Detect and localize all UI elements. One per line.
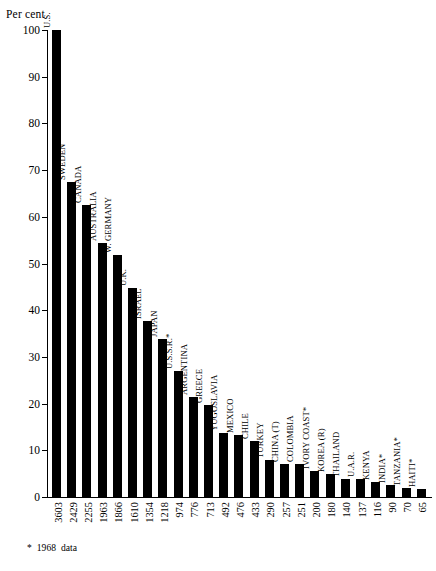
y-tick-label: 70: [29, 164, 41, 176]
bar: [98, 243, 107, 498]
y-tick-mark: [42, 77, 47, 78]
bar-value-text: 476: [235, 502, 246, 518]
y-tick-mark: [42, 310, 47, 311]
bar-column: AUSTRALIA: [98, 30, 107, 497]
bar-category-text: U.K.: [118, 269, 128, 286]
footnote-year: 1968: [37, 542, 56, 553]
bar: [265, 460, 274, 497]
bar-value-text: 137: [357, 502, 368, 518]
y-tick-label: 0: [34, 491, 40, 503]
bar-category-label: U.K.: [128, 279, 137, 288]
bar: [386, 485, 395, 497]
y-axis-title: Per cent: [6, 8, 45, 20]
bar-category-text: COLOMBIA: [285, 416, 295, 463]
bar-column: INDIA*: [386, 30, 395, 497]
footnote-word: data: [61, 542, 77, 553]
bar: [371, 482, 380, 497]
y-tick-mark: [42, 450, 47, 451]
bar-value-text: 1963: [98, 502, 109, 523]
y-tick-mark: [42, 123, 47, 124]
bar-category-text: HAITI*: [407, 458, 417, 486]
y-tick-mark: [42, 170, 47, 171]
bar-value-text: 65: [417, 502, 428, 512]
bar-category-text: MEXICO: [225, 399, 235, 434]
bar-category-label: W. GERMANY: [113, 246, 122, 255]
bar-category-label: HAITI*: [417, 480, 426, 489]
footnote-star: *: [27, 542, 32, 553]
bar-category-text: U.S.S.R.*: [164, 334, 174, 369]
bar-value-text: 1866: [113, 502, 124, 523]
bar-column: KOREA (R): [326, 30, 335, 497]
footnote: *1968data: [27, 542, 77, 553]
bar-category-text: ARGENTINA: [179, 344, 189, 395]
bar: [67, 182, 76, 497]
y-tick-label: 30: [29, 351, 41, 363]
bar-column: U.A.R.: [356, 30, 365, 497]
bar-category-text: KOREA (R): [316, 428, 326, 472]
y-tick-label: 20: [29, 398, 41, 410]
bar-value-text: 90: [387, 502, 398, 512]
bar-category-text: JAPAN: [149, 311, 159, 337]
bar: [189, 397, 198, 497]
bar-category-text: SWEDEN: [57, 144, 67, 180]
bar: [128, 288, 137, 497]
bar: [280, 464, 289, 497]
bar-value-text: 974: [174, 502, 185, 518]
bar-chart-figure: Per cent 0102030405060708090100 U.S.SWED…: [0, 0, 436, 571]
bar-value-text: 200: [311, 502, 322, 518]
y-tick-mark: [42, 497, 47, 498]
bar-category-text: INDIA*: [377, 454, 387, 483]
bar-value-text: 1610: [129, 502, 140, 523]
bar: [402, 488, 411, 497]
bar: [326, 474, 335, 497]
y-tick-label: 90: [29, 71, 41, 83]
y-tick-mark: [42, 264, 47, 265]
y-tick-mark: [42, 357, 47, 358]
bar-category-text: U.A.R.: [346, 452, 356, 477]
bar-category-text: TURKEY: [255, 422, 265, 457]
bar-column: CANADA: [82, 30, 91, 497]
bar-value-text: 70: [402, 502, 413, 512]
bar-column: THAILAND: [341, 30, 350, 497]
bar-category-text: W. GERMANY: [103, 197, 113, 253]
y-tick-label: 10: [29, 444, 41, 456]
bar-value-text: 290: [265, 502, 276, 518]
bar: [234, 435, 243, 497]
bar-value-text: 2429: [68, 502, 79, 523]
bar-category-text: THAILAND: [331, 432, 341, 477]
bar: [417, 489, 426, 497]
bar-value-text: 1354: [144, 502, 155, 523]
y-tick-label: 80: [29, 117, 41, 129]
bar-category-text: CHINA (T): [270, 421, 280, 462]
bar-column: HAITI*: [417, 30, 426, 497]
y-tick-label: 60: [29, 211, 41, 223]
bar-category-text: YUGOSLAVIA: [209, 375, 219, 431]
bar-category-text: U.S.: [42, 12, 52, 28]
y-tick-label: 100: [23, 24, 40, 36]
bar-column: U.S.: [52, 30, 61, 497]
bar-value-text: 433: [250, 502, 261, 518]
bar-column: W. GERMANY: [113, 30, 122, 497]
y-tick-mark: [42, 404, 47, 405]
bar-category-text: GREECE: [194, 369, 204, 403]
bar-value-text: 257: [281, 502, 292, 518]
bar-column: ARGENTINA: [189, 30, 198, 497]
bar-column: TANZANIA*: [402, 30, 411, 497]
bar: [295, 464, 304, 497]
bar-category-text: IVORY COAST*: [301, 407, 311, 469]
plot-area: 0102030405060708090100 U.S.SWEDENCANADAA…: [47, 30, 432, 497]
bar-column: KENYA: [371, 30, 380, 497]
y-tick-label: 50: [29, 258, 41, 270]
x-axis-line: [47, 497, 432, 498]
bar-value-text: 776: [189, 502, 200, 518]
bar-category-text: ISRAEL: [133, 289, 143, 320]
y-axis-line: [47, 30, 48, 497]
y-tick-mark: [42, 30, 47, 31]
bar: [52, 30, 61, 497]
bar-category-text: CANADA: [73, 165, 83, 202]
bar: [310, 471, 319, 497]
bar-value-text: 713: [205, 502, 216, 518]
bar-category-text: AUSTRALIA: [88, 191, 98, 241]
bar: [82, 205, 91, 497]
bar-column: IVORY COAST*: [310, 30, 319, 497]
